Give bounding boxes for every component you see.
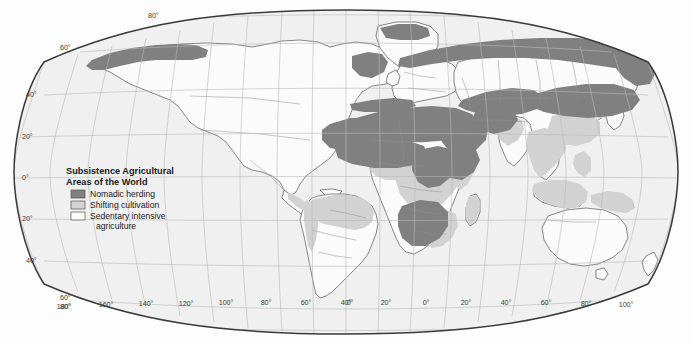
lon-label-20e: 20° bbox=[461, 298, 472, 307]
lon-label-100w: 100° bbox=[219, 298, 234, 307]
lon-label-160w: 160° bbox=[99, 300, 114, 309]
legend-label-nomadic-herding: Nomadic herding bbox=[90, 189, 155, 199]
lon-label-0: 0° bbox=[423, 298, 430, 307]
legend-swatch-shifting-cultivation bbox=[71, 201, 85, 209]
lon-label-180w: 180° bbox=[57, 302, 72, 311]
lon-label-140w: 140° bbox=[139, 299, 154, 308]
world-map-figure: 80° 60° 40° 20° 0° 20° 40° 60° 80° 180° … bbox=[0, 0, 692, 343]
lat-label-40n: 40° bbox=[26, 90, 37, 99]
lon-label-100e: 100° bbox=[619, 300, 634, 309]
legend-label-sedentary-intensive-cont: agriculture bbox=[96, 221, 136, 231]
lon-label-120w: 120° bbox=[179, 299, 194, 308]
lat-label-60s: 60° bbox=[60, 293, 71, 302]
lon-label-80e: 80° bbox=[581, 299, 592, 308]
region-nomadic-greenland-edge bbox=[380, 24, 430, 40]
longitude-labels-right: 0° bbox=[347, 298, 354, 307]
legend-swatch-sedentary-intensive bbox=[71, 212, 85, 220]
lat-label-20s: 20° bbox=[22, 214, 33, 223]
lon-label-20w: 20° bbox=[381, 298, 392, 307]
world-map-svg: 80° 60° 40° 20° 0° 20° 40° 60° 80° 180° … bbox=[0, 0, 692, 343]
lat-label-20n: 20° bbox=[22, 132, 33, 141]
lon-label-40e: 40° bbox=[501, 298, 512, 307]
legend-title-line1: Subsistence Agricultural bbox=[66, 166, 174, 176]
legend-title-line2: Areas of the World bbox=[66, 177, 148, 187]
legend-swatch-nomadic-herding bbox=[71, 190, 85, 198]
lat-label-40s: 40° bbox=[26, 256, 37, 265]
lat-label-60n: 60° bbox=[60, 43, 71, 52]
lon-label-0-right: 0° bbox=[347, 298, 354, 307]
lon-label-60e: 60° bbox=[541, 298, 552, 307]
legend-label-sedentary-intensive: Sedentary intensive bbox=[90, 211, 166, 221]
lon-label-60w: 60° bbox=[301, 298, 312, 307]
lat-label-0: 0° bbox=[22, 173, 29, 182]
lon-label-80w: 80° bbox=[261, 298, 272, 307]
legend-label-shifting-cultivation: Shifting cultivation bbox=[90, 200, 159, 210]
lat-label-80n: 80° bbox=[148, 11, 159, 20]
